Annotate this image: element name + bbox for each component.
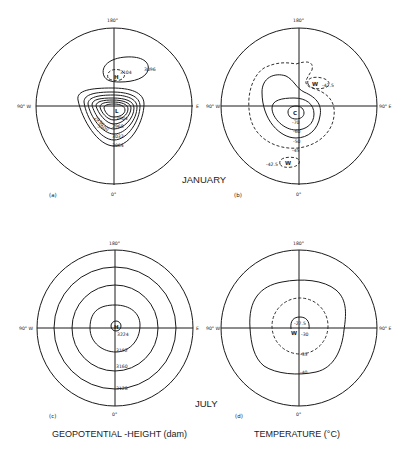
contour-minus45 [249, 62, 334, 148]
contour-label: 3064 [112, 143, 124, 148]
axis-label-left: 90° W [206, 104, 221, 109]
contour-label: 3104 [120, 70, 132, 75]
axis-label-top: 180° [293, 18, 304, 23]
contour-label: 2904 [116, 116, 128, 121]
caption-geopotential-height: GEOPOTENTIAL -HEIGHT (dam) [52, 429, 187, 439]
contour-minus40 [250, 280, 346, 374]
contour-label: -45 [292, 148, 300, 153]
caption-temperature: TEMPERATURE (°C) [254, 429, 340, 439]
contour-label: -35 [300, 352, 308, 357]
axis-label-right: 90° E [379, 104, 392, 109]
high-center-symbol: H [114, 324, 119, 330]
contour-label: -60 [293, 129, 301, 134]
axis-label-top: 180° [109, 241, 120, 246]
warm-center-symbol: W [312, 81, 318, 87]
panel-label: (a) [49, 192, 57, 198]
warm-center-symbol: W [285, 160, 291, 166]
panel-b-january-temperature: 180° 0° 90° W 90° E (b) C -70 -60 -50 -4… [206, 18, 392, 198]
axis-label-bottom: 0° [112, 412, 117, 417]
axis-label-top: 180° [293, 241, 304, 246]
panel-a-january-geopotential: 180° 0° 90° W E (a) H 3104 3096 L 2904 2… [17, 18, 199, 198]
panel-c-july-geopotential: 180° 0° 90° W E (c) H 3224 3192 3160 312… [19, 241, 199, 419]
polar-contour-figure: 180° 0° 90° W E (a) H 3104 3096 L 2904 2… [0, 0, 407, 458]
contour-label: 3000 [97, 123, 110, 132]
axis-label-left: 90° W [17, 104, 32, 109]
contour-label: 3160 [116, 364, 128, 369]
axis-label-bottom: 0° [296, 192, 301, 197]
axis-label-right: 90° E [379, 326, 392, 331]
contour-label: 3192 [116, 348, 128, 353]
contour-label: 3032 [112, 134, 124, 139]
axis-label-right: E [196, 326, 199, 331]
warm-center-symbol: W [291, 330, 297, 336]
contour-label: 3224 [117, 332, 129, 337]
axis-label-bottom: 0° [111, 192, 116, 197]
contour-minus35 [272, 298, 328, 354]
contour-label: -70 [292, 120, 300, 125]
contour-label: 3128 [116, 386, 128, 391]
axis-label-top: 180° [107, 18, 118, 23]
panel-label: (b) [234, 192, 242, 198]
panel-d-july-temperature: 180° 0° 90° W 90° E (d) -27.5 W -30 -35 … [206, 241, 392, 419]
contour-label: 2968 [112, 124, 124, 129]
axis-label-left: 90° W [19, 326, 34, 331]
contour-label: -50 [293, 139, 301, 144]
contour-label: 3096 [144, 67, 156, 72]
season-label-july: JULY [195, 398, 218, 409]
axis-label-left: 90° W [206, 326, 221, 331]
panel-label: (d) [235, 413, 243, 419]
cold-center-symbol: C [293, 110, 297, 116]
high-center-symbol: H [114, 74, 119, 80]
panel-label: (c) [49, 413, 56, 419]
contour-label: -30 [301, 332, 309, 337]
contour-label: -27.5 [294, 321, 306, 326]
season-label-january: JANUARY [182, 174, 227, 185]
contour-label: -42.5 [322, 83, 334, 88]
axis-label-right: E [196, 104, 199, 109]
low-center-symbol: L [115, 108, 119, 114]
contour-label: -40 [300, 370, 308, 375]
axis-label-bottom: 0° [296, 412, 301, 417]
contour-label: -42.5 [266, 162, 278, 167]
